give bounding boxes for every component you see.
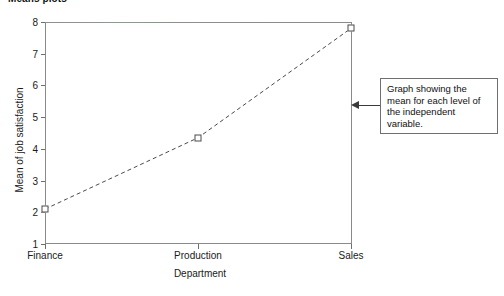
annotation-callout: Graph showing the mean for each level of… <box>380 78 498 134</box>
x-axis-tick <box>198 244 199 249</box>
x-axis-tick <box>351 244 352 249</box>
y-axis-title: Mean of job satisfaction <box>14 60 25 220</box>
plot-area <box>45 22 352 244</box>
x-tick-label-finance: Finance <box>27 250 63 261</box>
data-point-marker-production[interactable] <box>195 134 202 141</box>
data-point-marker-sales[interactable] <box>348 25 355 32</box>
y-tick-label: 8 <box>12 17 38 28</box>
right-axis-spine <box>351 22 352 244</box>
top-axis-spine <box>45 22 352 23</box>
callout-leader-line <box>358 105 380 106</box>
x-axis-title: Department <box>0 268 400 279</box>
x-tick-label-production: Production <box>174 250 222 261</box>
y-tick-label: 1 <box>12 239 38 250</box>
means-plot-figure: Means plots 8 7 6 5 4 3 2 1 Finance Prod… <box>0 0 504 296</box>
x-axis-tick <box>45 244 46 249</box>
y-tick-label: 7 <box>12 48 38 59</box>
x-tick-label-sales: Sales <box>338 250 363 261</box>
data-point-marker-finance[interactable] <box>42 206 49 213</box>
